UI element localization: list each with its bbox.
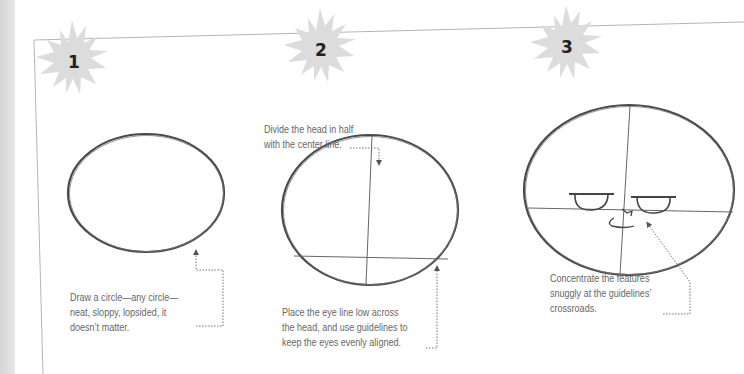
step-1-badge: 1 [36,20,108,94]
caption-line: with the center line. [264,137,353,152]
step-2-top-caption: Divide the head in half with the center … [264,122,353,152]
step-3-badge: 3 [530,5,602,79]
caption-line: doesn’t matter. [70,320,178,335]
step-1-caption: Draw a circle—any circle— neat, sloppy, … [70,290,178,335]
step-number-1: 1 [68,52,80,72]
step-2-bottom-leader-line [426,268,437,348]
caption-line: Concentrate the features [550,271,651,286]
step-2-top-leader-line [350,148,379,163]
caption-line: keep the eyes evenly aligned. [282,335,408,350]
caption-line: neat, sloppy, lopsided, it [70,305,178,320]
caption-line: Divide the head in half [264,122,353,137]
step-1-leader-line [196,252,223,326]
left-eye-icon [569,194,614,210]
step-number-3: 3 [561,37,573,57]
step-3-head-with-features [524,105,734,275]
step-2-badge: 2 [284,8,356,82]
caption-line: snuggly at the guidelines’ [550,286,651,301]
caption-line: Draw a circle—any circle— [70,290,178,305]
step-2-head-guidelines [282,135,458,285]
caption-line: Place the eye line low across [282,305,408,320]
step-1-head-circle [68,134,224,252]
step-3-caption: Concentrate the features snuggly at the … [550,271,651,316]
step-number-2: 2 [315,40,327,60]
step-2-caption: Place the eye line low across the head, … [282,305,408,350]
caption-line: crossroads. [550,301,651,316]
caption-line: the head, and use guidelines to [282,320,408,335]
mouth-icon [609,218,634,228]
